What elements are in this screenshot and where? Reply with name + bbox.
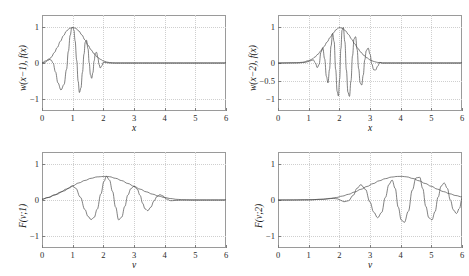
envelope-curve [278, 176, 462, 200]
plot-panel-bottom-right: 0123456−101νF(ν;2) [0, 0, 469, 276]
plot-curves-bottom-right [0, 0, 469, 276]
oscillation-curve [278, 177, 462, 222]
figure-canvas: 0123456−101xw(x−1), f(x)0123456−1−0.501x… [0, 0, 469, 276]
